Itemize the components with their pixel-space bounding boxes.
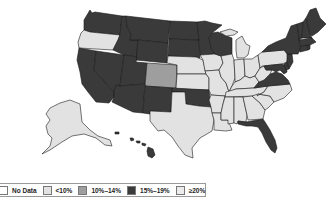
state-hi — [115, 132, 155, 158]
legend-item-10-14: 10%–14% — [78, 186, 121, 195]
state-mt — [126, 16, 170, 43]
legend-item-15-19: 15%–19% — [127, 186, 170, 195]
map-legend: No Data <10% 10%–14% 15%–19% ≥20% — [0, 183, 206, 197]
state-fl — [238, 119, 277, 153]
legend-swatch-10-14 — [78, 186, 87, 195]
legend-label: 15%–19% — [140, 187, 170, 194]
legend-label: ≥20% — [189, 187, 206, 194]
legend-item-lt10: <10% — [43, 186, 73, 195]
state-nm — [143, 86, 172, 114]
state-ak — [42, 100, 112, 154]
legend-item-ge20: ≥20% — [176, 186, 206, 195]
legend-swatch-ge20 — [176, 186, 185, 195]
legend-swatch-15-19 — [127, 186, 136, 195]
state-sd — [168, 39, 200, 58]
state-nd — [169, 21, 199, 40]
state-ks — [176, 74, 209, 90]
legend-label: 10%–14% — [91, 187, 121, 194]
state-ny — [262, 24, 300, 54]
state-co — [145, 63, 177, 88]
legend-item-no-data: No Data — [0, 186, 37, 195]
state-wy — [136, 40, 168, 63]
state-az — [112, 84, 145, 113]
legend-swatch-lt10 — [43, 186, 52, 195]
us-choropleth-map — [0, 0, 334, 180]
legend-swatch-no-data — [0, 186, 8, 195]
legend-label: No Data — [12, 187, 37, 194]
state-ma — [299, 38, 316, 46]
legend-label: <10% — [56, 187, 73, 194]
state-wa — [84, 10, 122, 35]
